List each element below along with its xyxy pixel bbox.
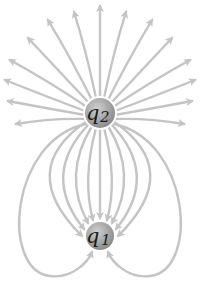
charge-q2: q 2 [83,96,117,130]
field-diagram: q 2 q 1 [0,0,205,291]
connecting-field-lines [19,121,181,276]
charge-q1-subscript: 1 [101,231,111,249]
charge-q2-subscript: 2 [99,108,110,126]
charge-q2-symbol: q [86,101,99,125]
charge-q1-symbol: q [86,224,99,248]
charge-q1: q 1 [84,220,116,252]
